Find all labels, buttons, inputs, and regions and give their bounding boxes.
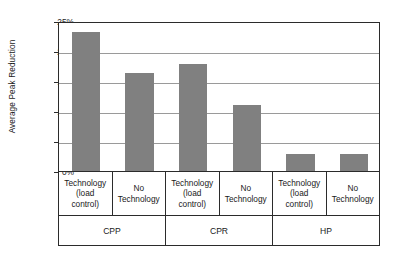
plot-area xyxy=(58,22,380,172)
x-axis-category-label-text: Technology(loadcontrol) xyxy=(64,178,106,210)
x-axis-category-label-text: Technology(loadcontrol) xyxy=(171,178,213,210)
x-axis-category-labels: Technology(loadcontrol)NoTechnologyTechn… xyxy=(58,172,380,216)
x-axis-group-label: CPP xyxy=(59,216,166,245)
x-axis-category-label: NoTechnology xyxy=(113,172,167,215)
bar xyxy=(233,105,261,171)
gridline xyxy=(59,83,379,84)
gridline xyxy=(59,113,379,114)
x-axis-category-label-text: NoTechnology xyxy=(332,183,374,204)
bar xyxy=(125,73,153,171)
y-axis-title-text: Average Peak Reduction xyxy=(9,39,18,133)
y-axis-title: Average Peak Reduction xyxy=(2,0,24,172)
x-axis-category-label: NoTechnology xyxy=(220,172,274,215)
bar xyxy=(340,154,368,171)
x-axis-category-label: Technology(loadcontrol) xyxy=(273,172,327,215)
bar-chart-figure: Average Peak Reduction 0%5%10%15%20%25% … xyxy=(0,0,394,258)
gridline xyxy=(59,53,379,54)
x-axis-group-label: CPR xyxy=(166,216,273,245)
x-axis-category-label: Technology(loadcontrol) xyxy=(59,172,113,215)
x-axis-category-label: Technology(loadcontrol) xyxy=(166,172,220,215)
bar xyxy=(286,154,314,171)
bar xyxy=(179,64,207,171)
x-axis-group-labels: CPPCPRHP xyxy=(58,216,380,246)
x-axis-category-label-text: NoTechnology xyxy=(225,183,267,204)
x-axis-category-label-text: NoTechnology xyxy=(118,183,160,204)
x-axis-group-label: HP xyxy=(273,216,379,245)
bar xyxy=(72,32,100,171)
gridline xyxy=(59,143,379,144)
x-axis-category-label: NoTechnology xyxy=(327,172,380,215)
x-axis-category-label-text: Technology(loadcontrol) xyxy=(278,178,320,210)
